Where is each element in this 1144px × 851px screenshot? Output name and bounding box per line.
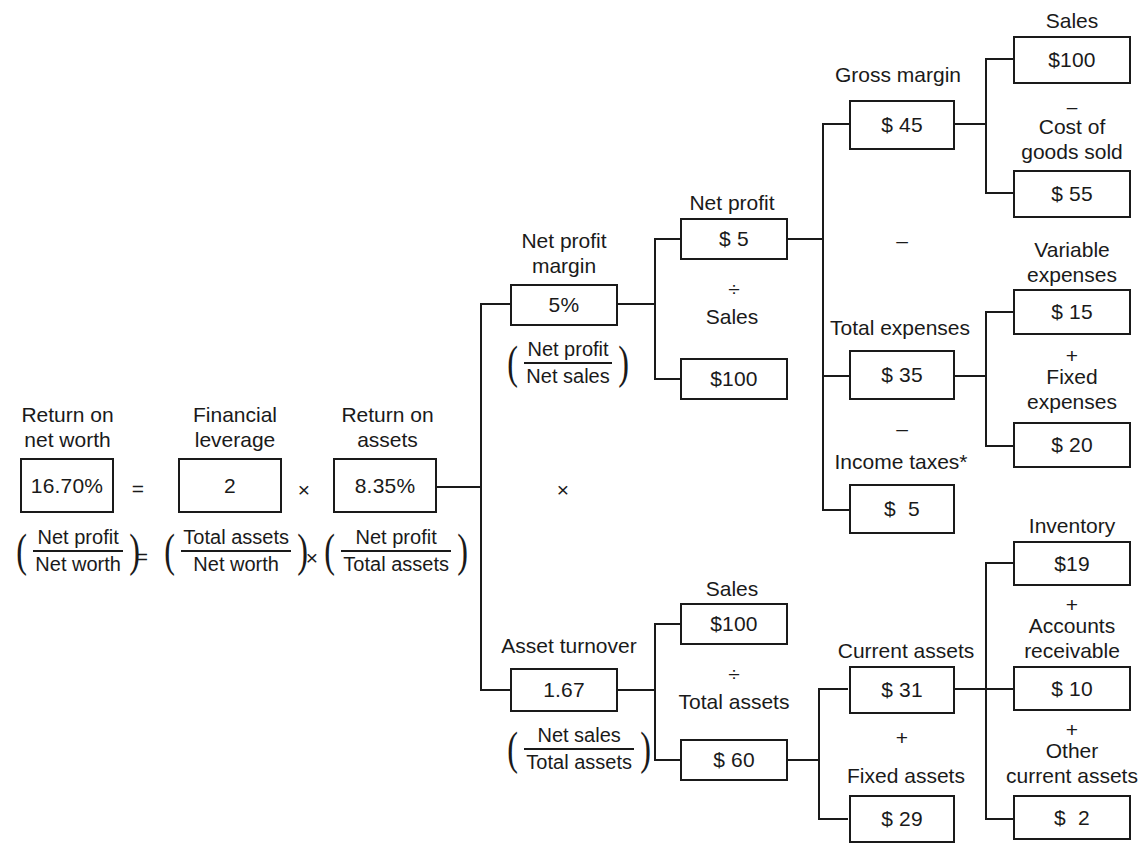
fixed-expenses-label: Fixed expenses xyxy=(1012,364,1132,414)
net-profit-label: Net profit xyxy=(672,190,792,215)
connector-bracket-to-sales-bottom xyxy=(654,623,682,625)
variable-expenses-box[interactable]: $ 15 xyxy=(1013,289,1131,335)
inventory-box[interactable]: $19 xyxy=(1013,541,1131,586)
sales-top-box[interactable]: $100 xyxy=(680,358,788,400)
return-on-net-worth-label: Return on net worth xyxy=(10,402,125,452)
asset-turnover-label: Asset turnover xyxy=(494,633,644,658)
connector-bracket-to-sales-top xyxy=(654,378,682,380)
divide-operator-bottom: ÷ xyxy=(680,663,788,684)
income-taxes-label: Income taxes* xyxy=(818,449,984,474)
fixed-expenses-box[interactable]: $ 20 xyxy=(1013,422,1131,468)
paren-open-icon: ( xyxy=(507,343,518,383)
connector-bracket-to-total-assets xyxy=(654,759,682,761)
connector-bracket-to-current-assets xyxy=(818,688,848,690)
current-assets-box[interactable]: $ 31 xyxy=(849,666,955,714)
leverage-formula-numerator: Total assets xyxy=(181,526,291,552)
paren-open-icon: ( xyxy=(164,531,175,571)
paren-open-icon: ( xyxy=(324,531,335,571)
connector-bracket-to-variable-expenses xyxy=(985,311,1015,313)
connector-bracket-to-cogs xyxy=(985,192,1015,194)
equals-operator-box-row: = xyxy=(122,478,154,499)
minus-operator-expenses-to-taxes: – xyxy=(849,418,955,439)
connector-total-assets-to-bracket xyxy=(788,759,820,761)
connector-bracket-to-inventory xyxy=(985,562,1015,564)
connector-asset-turnover-to-bracket xyxy=(618,689,656,691)
paren-close-icon: ) xyxy=(457,531,468,571)
return-on-net-worth-box[interactable]: 16.70% xyxy=(20,458,114,513)
branch-times-operator: × xyxy=(547,479,579,500)
connector-total-expenses-to-bracket xyxy=(955,375,987,377)
connector-bracket-to-other-current-assets xyxy=(985,818,1015,820)
bracket-npm-vertical xyxy=(654,238,656,380)
plus-operator-variable-fixed: + xyxy=(1013,345,1131,366)
roa-formula-denominator: Total assets xyxy=(341,552,451,576)
total-expenses-label: Total expenses xyxy=(820,315,980,340)
bracket-expenses-vertical xyxy=(985,311,987,447)
equals-operator-formula-row: = xyxy=(126,546,158,567)
other-current-assets-label: Other current assets xyxy=(1002,738,1142,788)
divide-operator-top: ÷ xyxy=(680,278,788,299)
bracket-asset-turnover-vertical xyxy=(654,623,656,761)
accounts-receivable-box[interactable]: $ 10 xyxy=(1013,666,1131,711)
net-profit-margin-formula: ( Net profit Net sales ) xyxy=(505,338,631,388)
inventory-label: Inventory xyxy=(1012,513,1132,538)
fixed-assets-box[interactable]: $ 29 xyxy=(849,795,955,843)
connector-bracket-to-total-expenses xyxy=(822,375,850,377)
connector-bracket-to-gross-margin xyxy=(822,123,850,125)
bracket-assets-vertical xyxy=(818,688,820,820)
paren-open-icon: ( xyxy=(507,729,518,769)
dupont-diagram: Return on net worth 16.70% ( Net profit … xyxy=(0,0,1144,851)
ronw-formula-numerator: Net profit xyxy=(33,526,123,552)
return-on-assets-box[interactable]: 8.35% xyxy=(333,458,437,513)
cost-of-goods-sold-label: Cost of goods sold xyxy=(1012,114,1132,164)
connector-bracket-to-asset-turnover xyxy=(480,689,512,691)
roa-formula-numerator: Net profit xyxy=(341,526,451,552)
total-expenses-box[interactable]: $ 35 xyxy=(849,350,955,400)
sales-top-label: Sales xyxy=(672,304,792,329)
connector-bracket-to-fixed-expenses xyxy=(985,445,1015,447)
gross-margin-label: Gross margin xyxy=(828,62,968,87)
asset-turnover-formula-denominator: Total assets xyxy=(524,750,634,774)
asset-turnover-box[interactable]: 1.67 xyxy=(510,668,618,712)
total-assets-label: Total assets xyxy=(664,689,804,714)
financial-leverage-box[interactable]: 2 xyxy=(178,458,282,513)
cost-of-goods-sold-box[interactable]: $ 55 xyxy=(1013,170,1131,218)
plus-operator-ar-oca: + xyxy=(1013,719,1131,740)
asset-turnover-formula: ( Net sales Total assets ) xyxy=(505,724,653,774)
paren-open-icon: ( xyxy=(16,531,27,571)
financial-leverage-formula: ( Total assets Net worth ) xyxy=(162,526,310,576)
gross-margin-box[interactable]: $ 45 xyxy=(849,100,955,150)
npm-formula-numerator: Net profit xyxy=(524,338,611,364)
npm-formula-denominator: Net sales xyxy=(524,364,611,388)
times-operator-box-row: × xyxy=(288,479,320,500)
bracket-main-vertical xyxy=(480,303,482,691)
connector-bracket-to-fixed-assets xyxy=(818,818,848,820)
net-profit-box[interactable]: $ 5 xyxy=(680,218,788,260)
total-assets-box[interactable]: $ 60 xyxy=(680,739,788,781)
connector-npm-to-bracket xyxy=(618,303,656,305)
net-profit-margin-label: Net profit margin xyxy=(505,228,623,278)
minus-operator-gross-to-expenses: – xyxy=(849,230,955,251)
sales-bottom-label: Sales xyxy=(672,576,792,601)
sales-bottom-box[interactable]: $100 xyxy=(680,603,788,645)
bracket-gross-margin-vertical xyxy=(985,58,987,194)
connector-bracket-to-income-taxes xyxy=(822,509,850,511)
variable-expenses-label: Variable expenses xyxy=(1012,237,1132,287)
income-taxes-box[interactable]: $ 5 xyxy=(849,484,955,534)
sales-box[interactable]: $100 xyxy=(1013,36,1131,84)
leverage-formula-denominator: Net worth xyxy=(181,552,291,576)
connector-bracket-to-net-profit xyxy=(654,238,682,240)
plus-operator-current-fixed: + xyxy=(849,727,955,748)
bracket-current-assets-vertical xyxy=(985,562,987,818)
connector-net-profit-to-bracket xyxy=(788,238,824,240)
paren-close-icon: ) xyxy=(640,729,651,769)
connector-roa-to-bracket xyxy=(437,486,482,488)
other-current-assets-box[interactable]: $ 2 xyxy=(1013,795,1131,840)
connector-gross-margin-to-bracket xyxy=(955,123,987,125)
financial-leverage-label: Financial leverage xyxy=(170,402,300,452)
return-on-assets-formula: ( Net profit Total assets ) xyxy=(322,526,470,576)
accounts-receivable-label: Accounts receivable xyxy=(1012,613,1132,663)
plus-operator-inventory-ar: + xyxy=(1013,594,1131,615)
net-profit-margin-box[interactable]: 5% xyxy=(510,284,618,326)
current-assets-label: Current assets xyxy=(826,638,986,663)
